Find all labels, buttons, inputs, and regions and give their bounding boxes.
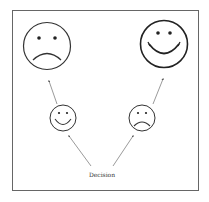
decision-label: Decision bbox=[89, 171, 115, 178]
decision-diagram: Decision bbox=[0, 0, 209, 202]
